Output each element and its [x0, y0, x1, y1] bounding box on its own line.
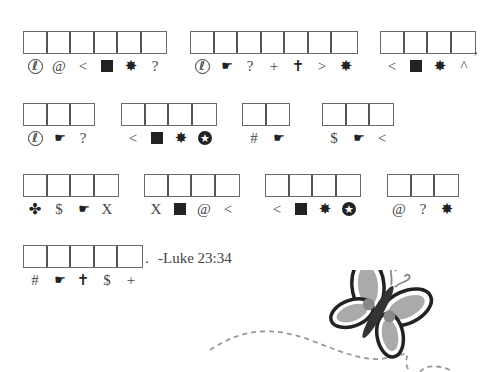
letter-box[interactable] [347, 104, 371, 125]
cipher-symbol: < [370, 130, 394, 146]
letter-box[interactable] [24, 32, 48, 53]
cipher-symbol: @ [192, 201, 216, 217]
cipher-symbol: ^ [452, 58, 476, 74]
letter-box[interactable] [118, 32, 142, 53]
letter-box[interactable] [266, 175, 290, 196]
filled-square-icon [289, 201, 313, 217]
pointing-hand-icon: ☛ [71, 201, 95, 217]
starburst-icon: ✸ [334, 58, 358, 74]
cipher-symbol: $ [95, 272, 119, 288]
cipher-symbol: < [380, 58, 404, 74]
letter-box[interactable] [332, 32, 354, 53]
letter-box[interactable] [267, 104, 289, 125]
starburst-icon: ✸ [435, 201, 459, 217]
letter-box[interactable] [290, 175, 314, 196]
letter-box[interactable] [216, 175, 238, 196]
letter-box[interactable] [428, 32, 452, 53]
letter-box[interactable] [48, 104, 72, 125]
letter-box[interactable] [192, 175, 216, 196]
cipher-symbol: + [262, 58, 286, 74]
letter-box[interactable] [71, 175, 95, 196]
letter-boxes [23, 245, 143, 268]
letter-box[interactable] [71, 32, 95, 53]
letter-box[interactable] [48, 246, 72, 267]
pointing-hand-icon: ☛ [266, 130, 290, 146]
cipher-codes: ✤$☛X [23, 201, 119, 217]
cipher-symbol: ? [71, 130, 95, 146]
cipher-word: <✸★ [265, 174, 361, 217]
circled-star-icon: ★ [337, 201, 361, 217]
starburst-icon: ✸ [313, 201, 337, 217]
cipher-word: #☛ [242, 103, 290, 146]
filled-square-icon [145, 130, 169, 146]
cipher-symbol: ? [143, 58, 167, 74]
cipher-word: X@< [144, 174, 240, 217]
letter-box[interactable] [142, 32, 164, 53]
letter-box[interactable] [215, 32, 239, 53]
cipher-symbol: @ [387, 201, 411, 217]
letter-box[interactable] [412, 175, 436, 196]
letter-box[interactable] [95, 175, 117, 196]
letter-boxes [387, 174, 459, 197]
letter-box[interactable] [71, 246, 95, 267]
letter-box[interactable] [122, 104, 146, 125]
letter-box[interactable] [95, 246, 119, 267]
letter-boxes [265, 174, 361, 197]
cipher-codes: ℓ☛? [23, 130, 95, 146]
phone-circle-icon: ℓ [23, 130, 47, 146]
letter-box[interactable] [452, 32, 474, 53]
pointing-hand-icon: ☛ [214, 58, 238, 74]
letter-boxes [190, 31, 358, 54]
letter-box[interactable] [309, 32, 333, 53]
letter-box[interactable] [238, 32, 262, 53]
letter-boxes [121, 103, 217, 126]
cipher-symbol: # [242, 130, 266, 146]
letter-box[interactable] [285, 32, 309, 53]
cipher-codes: X@< [144, 201, 240, 217]
letter-box[interactable] [313, 175, 337, 196]
letter-box[interactable] [48, 175, 72, 196]
letter-box[interactable] [169, 104, 193, 125]
letter-box[interactable] [370, 104, 392, 125]
pointing-hand-icon: ☛ [346, 130, 370, 146]
cipher-symbol: < [216, 201, 240, 217]
letter-box[interactable] [191, 32, 215, 53]
letter-box[interactable] [435, 175, 457, 196]
letter-box[interactable] [48, 32, 72, 53]
filled-square-icon [168, 201, 192, 217]
cipher-codes: #☛✝$+ [23, 272, 143, 288]
letter-box[interactable] [337, 175, 359, 196]
letter-box[interactable] [24, 246, 48, 267]
cipher-symbol: < [71, 58, 95, 74]
letter-box[interactable] [405, 32, 429, 53]
cipher-codes: <✸★ [121, 130, 217, 146]
cipher-symbol: # [23, 272, 47, 288]
letter-box[interactable] [169, 175, 193, 196]
letter-box[interactable] [24, 104, 48, 125]
club-flower-icon: ✤ [23, 201, 47, 217]
cross-icon: ✝ [286, 58, 310, 74]
letter-box[interactable] [381, 32, 405, 53]
letter-box[interactable] [95, 32, 119, 53]
letter-boxes [380, 31, 476, 54]
letter-box[interactable] [118, 246, 140, 267]
letter-box[interactable] [71, 104, 93, 125]
cipher-symbol: $ [47, 201, 71, 217]
letter-box[interactable] [145, 175, 169, 196]
cipher-word: ✤$☛X [23, 174, 119, 217]
letter-box[interactable] [243, 104, 267, 125]
butterfly-illustration [200, 270, 491, 372]
cipher-word: #☛✝$+ [23, 245, 143, 288]
letter-box[interactable] [388, 175, 412, 196]
filled-square-icon [404, 58, 428, 74]
letter-box[interactable] [262, 32, 286, 53]
cipher-symbol: ? [238, 58, 262, 74]
pointing-hand-icon: ☛ [47, 272, 71, 288]
letter-boxes [23, 31, 167, 54]
letter-box[interactable] [323, 104, 347, 125]
letter-box[interactable] [24, 175, 48, 196]
cipher-word: ℓ@<✸? [23, 31, 167, 74]
cipher-word: @?✸ [387, 174, 459, 217]
letter-box[interactable] [146, 104, 170, 125]
letter-box[interactable] [193, 104, 215, 125]
